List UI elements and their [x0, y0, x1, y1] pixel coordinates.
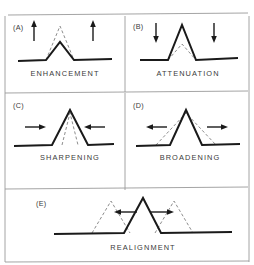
panel-a-solid-peak — [18, 42, 112, 61]
top-rule — [8, 13, 248, 15]
panel-c-arrow-right — [84, 124, 105, 130]
middle-rule — [5, 91, 248, 93]
panel-c-caption: SHARPENING — [40, 153, 100, 162]
panel-a-caption: ENHANCEMENT — [30, 69, 99, 78]
panel-d-dashed-peak — [156, 113, 216, 145]
panel-d-label: (D) — [133, 101, 144, 110]
peak-modification-diagram: (A) ENHANCEMENT (B) — [0, 0, 254, 265]
panel-d: (D) BROADENING — [133, 101, 240, 162]
panel-b-caption: ATTENUATION — [156, 69, 219, 78]
panel-a-arrow-right — [90, 20, 96, 41]
bottom-rule — [5, 261, 249, 262]
panel-d-arrow-left — [146, 124, 167, 130]
panel-c-solid-peak — [14, 110, 114, 146]
panel-a-arrow-left — [31, 20, 37, 41]
panel-e: (E) REALIGNMENT — [36, 198, 232, 252]
panel-b-solid-peak — [140, 25, 238, 60]
panel-b-label: (B) — [133, 22, 143, 31]
panel-e-caption: REALIGNMENT — [110, 243, 175, 252]
panel-e-dashed-peak-right — [155, 201, 193, 233]
figure-container: (A) ENHANCEMENT (B) — [0, 0, 254, 265]
panel-b: (B) ATTENUATION — [133, 22, 238, 78]
panel-d-arrow-right — [207, 124, 228, 130]
panel-e-arrow-right — [151, 209, 174, 215]
panel-a-label: (A) — [13, 23, 23, 32]
panel-d-caption: BROADENING — [160, 153, 221, 162]
frame-rules — [5, 13, 249, 262]
panel-e-dashed-peak-left — [92, 201, 130, 233]
lower-rule — [5, 187, 248, 189]
panel-b-arrow-left — [153, 23, 159, 43]
panel-b-arrow-right — [211, 23, 217, 43]
panel-c-label: (C) — [13, 101, 24, 110]
panel-a: (A) ENHANCEMENT — [13, 20, 112, 78]
panel-e-solid-peak — [54, 198, 232, 234]
panel-c-arrow-left — [25, 124, 46, 130]
panel-c-dashed-peak — [62, 113, 78, 145]
panel-e-label: (E) — [36, 199, 46, 208]
panel-c: (C) SHARPENING — [13, 101, 114, 162]
